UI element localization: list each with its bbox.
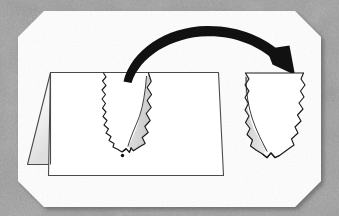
figure-layer xyxy=(0,0,339,216)
illustration-canvas xyxy=(0,0,339,216)
folded-card xyxy=(28,73,224,176)
dot-marker xyxy=(121,154,124,157)
